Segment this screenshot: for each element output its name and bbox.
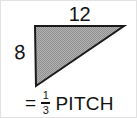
pitch-word-label: PITCH — [55, 94, 114, 113]
equals-sign: = — [25, 93, 36, 112]
one-third-fraction: 1 3 — [41, 90, 50, 116]
pitch-diagram-figure: 12 8 = 1 3 PITCH — [0, 0, 137, 118]
fraction-numerator: 1 — [42, 90, 50, 101]
run-label: 12 — [1, 4, 137, 24]
fraction-denominator: 3 — [42, 105, 50, 116]
right-triangle-shape — [35, 26, 124, 86]
pitch-caption: = 1 3 PITCH — [1, 90, 137, 116]
